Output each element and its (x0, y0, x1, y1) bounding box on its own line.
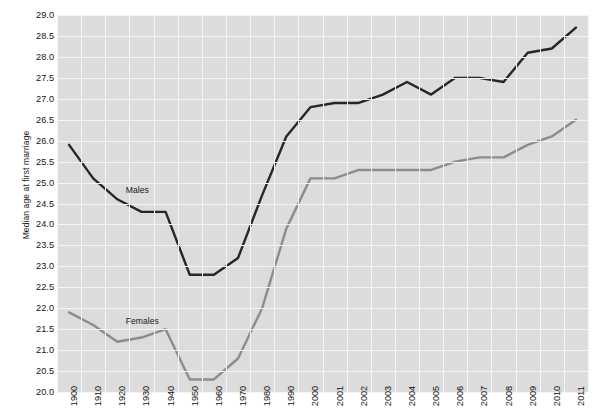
x-tick-label: 1980 (262, 386, 272, 406)
x-tick-label: 2005 (431, 386, 441, 406)
x-tick-label: 2001 (335, 386, 345, 406)
series-annotation-females: Females (126, 316, 159, 326)
gridline-vertical (323, 15, 324, 392)
x-tick-label: 1920 (117, 386, 127, 406)
series-annotation-males: Males (126, 185, 149, 195)
gridline-vertical (347, 15, 348, 392)
y-tick-label: 22.0 (36, 303, 54, 313)
y-tick-label: 27.0 (36, 94, 54, 104)
y-tick-label: 28.5 (36, 31, 54, 41)
x-tick-label: 2011 (576, 386, 586, 406)
gridline-vertical (105, 15, 106, 392)
y-tick-label: 29.0 (36, 10, 54, 20)
y-tick-label: 21.5 (36, 324, 54, 334)
y-tick-label: 20.5 (36, 366, 54, 376)
x-tick-label: 1930 (141, 386, 151, 406)
x-axis-tick-labels: 1900191019201930194019501960197019801990… (0, 396, 598, 419)
x-tick-label: 2008 (504, 386, 514, 406)
x-tick-label: 1960 (214, 386, 224, 406)
y-tick-label: 23.5 (36, 240, 54, 250)
y-tick-label: 26.5 (36, 115, 54, 125)
x-tick-label: 2009 (528, 386, 538, 406)
x-tick-label: 2006 (455, 386, 465, 406)
gridline-vertical (516, 15, 517, 392)
x-tick-label: 2010 (552, 386, 562, 406)
gridline-vertical (443, 15, 444, 392)
plot-area (57, 15, 588, 392)
gridline-vertical (588, 15, 589, 392)
x-tick-label: 1910 (93, 386, 103, 406)
y-tick-label: 22.5 (36, 282, 54, 292)
gridline-vertical (371, 15, 372, 392)
y-tick-label: 27.5 (36, 73, 54, 83)
x-tick-label: 2007 (479, 386, 489, 406)
gridline-vertical (226, 15, 227, 392)
y-axis-tick-labels: 29.028.528.027.527.026.526.025.525.024.5… (26, 0, 54, 419)
y-tick-label: 23.0 (36, 261, 54, 271)
gridline-vertical (564, 15, 565, 392)
x-tick-label: 1970 (238, 386, 248, 406)
gridline-vertical (419, 15, 420, 392)
y-tick-label: 21.0 (36, 345, 54, 355)
x-tick-label: 2004 (407, 386, 417, 406)
gridline-vertical (129, 15, 130, 392)
y-tick-label: 28.0 (36, 52, 54, 62)
x-tick-label: 2000 (310, 386, 320, 406)
y-tick-label: 24.5 (36, 199, 54, 209)
gridline-vertical (274, 15, 275, 392)
gridline-vertical (540, 15, 541, 392)
gridline-vertical (154, 15, 155, 392)
gridline-vertical (81, 15, 82, 392)
gridline-vertical (395, 15, 396, 392)
x-tick-label: 1950 (190, 386, 200, 406)
gridline-vertical (202, 15, 203, 392)
gridline-vertical (57, 15, 58, 392)
gridline-vertical (250, 15, 251, 392)
y-tick-label: 26.0 (36, 136, 54, 146)
gridline-vertical (467, 15, 468, 392)
gridline-vertical (298, 15, 299, 392)
chart-container: Median age at first marriage 29.028.528.… (0, 0, 598, 419)
x-tick-label: 2003 (383, 386, 393, 406)
x-tick-label: 1990 (286, 386, 296, 406)
y-tick-label: 24.0 (36, 219, 54, 229)
x-tick-label: 1940 (166, 386, 176, 406)
y-tick-label: 25.0 (36, 178, 54, 188)
x-tick-label: 2002 (359, 386, 369, 406)
gridline-vertical (491, 15, 492, 392)
y-tick-label: 25.5 (36, 157, 54, 167)
gridline-vertical (178, 15, 179, 392)
x-tick-label: 1900 (69, 386, 79, 406)
